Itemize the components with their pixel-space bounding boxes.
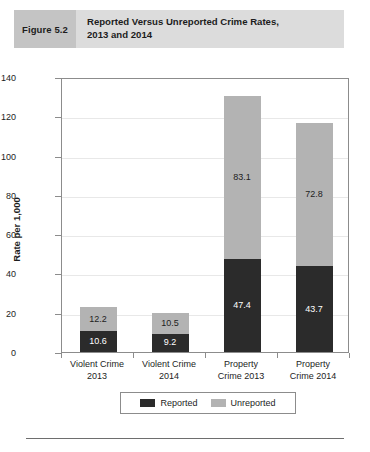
legend-label: Reported <box>160 398 197 408</box>
bar-segment-reported: 43.7 <box>296 266 333 352</box>
bar-segment-unreported: 10.5 <box>152 313 189 334</box>
bar-value-label: 47.4 <box>233 301 251 310</box>
legend-item: Reported <box>140 398 197 408</box>
x-axis-category-label: Property Crime 2014 <box>267 359 359 382</box>
y-axis-tick-label: 20 <box>0 309 16 319</box>
bar-stack: 10.59.2 <box>152 313 189 352</box>
bar-segment-unreported: 12.2 <box>80 307 117 331</box>
chart-legend: ReportedUnreported <box>120 392 296 414</box>
figure-title: Reported Versus Unreported Crime Rates, … <box>76 10 344 48</box>
bar-value-label: 10.5 <box>161 319 179 328</box>
x-axis-tick-mark <box>277 353 278 358</box>
footer-divider <box>26 438 344 439</box>
bar-value-label: 43.7 <box>305 305 323 314</box>
bar-value-label: 10.6 <box>89 337 107 346</box>
bar-stack: 72.843.7 <box>296 123 333 352</box>
y-axis-tick-label: 100 <box>0 152 16 162</box>
x-axis-tick-mark <box>205 353 206 358</box>
bar-stack: 12.210.6 <box>80 307 117 352</box>
y-axis-tick-label: 0 <box>0 348 16 358</box>
figure-header: Figure 5.2 Reported Versus Unreported Cr… <box>14 10 344 48</box>
y-axis-tick-label: 80 <box>0 191 16 201</box>
bar-segment-reported: 9.2 <box>152 334 189 352</box>
gridline <box>62 118 348 119</box>
legend-label: Unreported <box>231 398 276 408</box>
bar-segment-unreported: 72.8 <box>296 123 333 266</box>
bar-stack: 83.147.4 <box>224 96 261 352</box>
x-axis-tick-mark <box>133 353 134 358</box>
y-axis-tick-label: 120 <box>0 112 16 122</box>
chart-container: Rate per 1,000 140120100806040200 12.210… <box>0 56 370 406</box>
bar-segment-reported: 10.6 <box>80 331 117 352</box>
bar-value-label: 72.8 <box>305 190 323 199</box>
y-axis-tick-label: 40 <box>0 269 16 279</box>
y-axis-tick-label: 60 <box>0 230 16 240</box>
plot-area: 12.210.610.59.283.147.472.843.7 <box>61 78 349 353</box>
x-axis-tick-mark <box>349 353 350 358</box>
bar-value-label: 9.2 <box>164 338 177 347</box>
legend-swatch <box>140 399 155 407</box>
y-axis-tick-label: 140 <box>0 73 16 83</box>
legend-swatch <box>211 399 226 407</box>
figure-number-label: Figure 5.2 <box>14 10 76 48</box>
bar-segment-unreported: 83.1 <box>224 96 261 259</box>
bar-value-label: 83.1 <box>233 173 251 182</box>
x-axis-tick-mark <box>61 353 62 358</box>
bar-segment-reported: 47.4 <box>224 259 261 352</box>
legend-item: Unreported <box>211 398 276 408</box>
bar-value-label: 12.2 <box>89 315 107 324</box>
